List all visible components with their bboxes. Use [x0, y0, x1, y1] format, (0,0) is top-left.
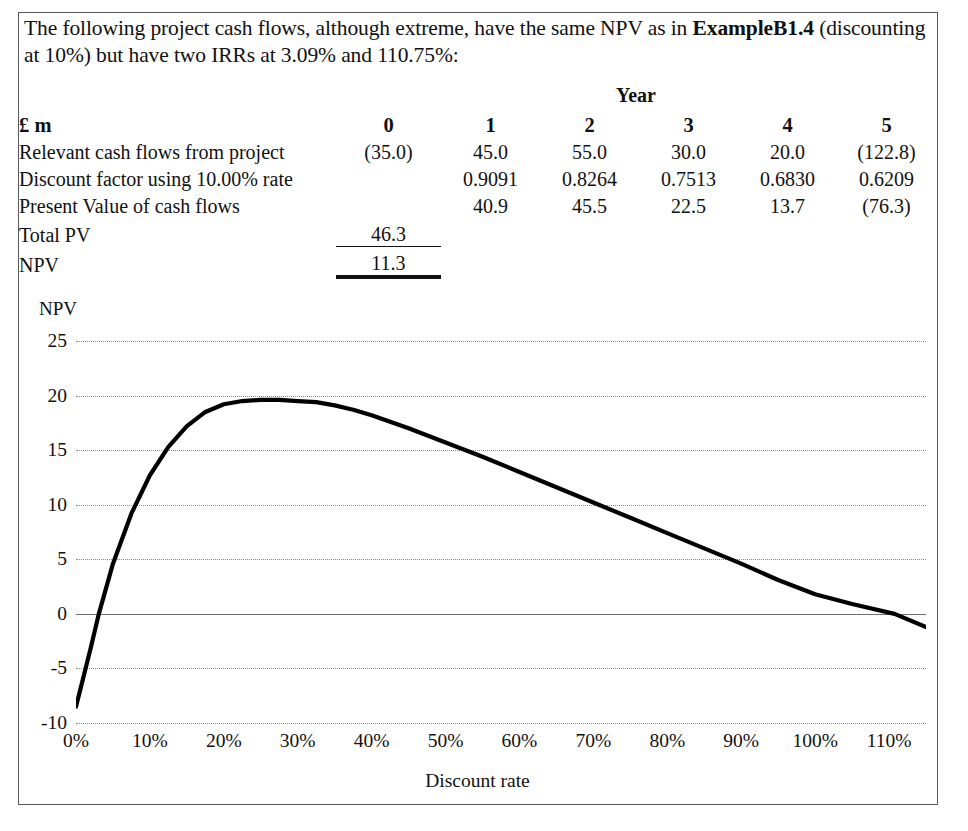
cell-discount-y5: 0.6209	[837, 164, 936, 191]
table-header-row: £ m 0 1 2 3 4 5	[19, 107, 936, 137]
cell-cashflow-y5: (122.8)	[837, 137, 936, 164]
y-tick-label: 5	[19, 549, 67, 569]
cell-cashflow-y1: 45.0	[441, 137, 540, 164]
x-tick-label: 40%	[342, 731, 402, 751]
table-row: Total PV 46.3	[19, 218, 936, 247]
intro-paragraph: The following project cash flows, althou…	[24, 15, 932, 69]
cell-discount-y3: 0.7513	[639, 164, 738, 191]
x-tick-label: 10%	[120, 731, 180, 751]
table-row: Present Value of cash flows 40.9 45.5 22…	[19, 191, 936, 218]
gridline	[76, 723, 926, 724]
row-label-cash-flows: Relevant cash flows from project	[19, 137, 336, 164]
content-frame: The following project cash flows, althou…	[18, 12, 938, 805]
row-label-total-pv: Total PV	[19, 218, 336, 247]
x-tick-label: 80%	[637, 731, 697, 751]
summary-spacer-10	[837, 247, 936, 278]
intro-text-part-1: The following project cash flows, althou…	[24, 16, 693, 40]
summary-spacer-9	[738, 247, 837, 278]
x-tick-label: 100%	[785, 731, 845, 751]
x-tick-label: 20%	[194, 731, 254, 751]
x-tick-label: 30%	[268, 731, 328, 751]
unit-header: £ m	[19, 107, 336, 137]
summary-spacer-3	[639, 218, 738, 247]
column-header-5: 5	[837, 107, 936, 137]
y-tick-label: 10	[19, 495, 67, 515]
cell-cashflow-y0: (35.0)	[336, 137, 441, 164]
cell-discount-y4: 0.6830	[738, 164, 837, 191]
cell-discount-y1: 0.9091	[441, 164, 540, 191]
y-tick-label: 15	[19, 440, 67, 460]
table-row: Discount factor using 10.00% rate 0.9091…	[19, 164, 936, 191]
plot-area	[76, 341, 926, 723]
cell-pv-y1: 40.9	[441, 191, 540, 218]
cell-total-pv-value: 46.3	[336, 218, 441, 247]
y-tick-label: -5	[19, 658, 67, 678]
y-tick-label: 25	[19, 331, 67, 351]
y-axis-title: NPV	[39, 298, 77, 320]
year-band-spacer	[19, 81, 336, 107]
x-tick-label: 50%	[416, 731, 476, 751]
intro-example-ref-2: B1.4	[773, 16, 814, 40]
cell-cashflow-y3: 30.0	[639, 137, 738, 164]
column-header-1: 1	[441, 107, 540, 137]
cell-pv-y4: 13.7	[738, 191, 837, 218]
summary-spacer-6	[441, 247, 540, 278]
cell-discount-y2: 0.8264	[540, 164, 639, 191]
column-header-0: 0	[336, 107, 441, 137]
cell-pv-y3: 22.5	[639, 191, 738, 218]
row-label-npv: NPV	[19, 247, 336, 278]
summary-spacer-7	[540, 247, 639, 278]
npv-curve	[76, 341, 926, 723]
summary-spacer-2	[540, 218, 639, 247]
column-header-2: 2	[540, 107, 639, 137]
y-tick-label: 20	[19, 386, 67, 406]
row-label-present-value: Present Value of cash flows	[19, 191, 336, 218]
npv-profile-chart: NPV 2520151050-5-10 0%10%20%30%40%50%60%…	[19, 298, 936, 803]
x-tick-label: 0%	[46, 731, 106, 751]
summary-spacer-4	[738, 218, 837, 247]
row-label-discount-factor: Discount factor using 10.00% rate	[19, 164, 336, 191]
table-year-band-row: Year	[19, 81, 936, 107]
summary-spacer-8	[639, 247, 738, 278]
y-tick-label: 0	[19, 604, 67, 624]
y-tick-label: -10	[19, 713, 67, 733]
cash-flow-table: Year £ m 0 1 2 3 4 5 Relevant cash flows…	[19, 81, 936, 279]
table-row: Relevant cash flows from project (35.0) …	[19, 137, 936, 164]
x-axis-title: Discount rate	[19, 770, 936, 792]
cell-discount-y0	[336, 164, 441, 191]
x-tick-label: 90%	[711, 731, 771, 751]
cell-cashflow-y2: 55.0	[540, 137, 639, 164]
x-tick-label: 60%	[489, 731, 549, 751]
cell-pv-y2: 45.5	[540, 191, 639, 218]
summary-spacer-5	[837, 218, 936, 247]
x-tick-label: 110%	[859, 731, 919, 751]
cell-pv-y0	[336, 191, 441, 218]
column-header-3: 3	[639, 107, 738, 137]
cell-pv-y5: (76.3)	[837, 191, 936, 218]
cell-npv-value: 11.3	[336, 247, 441, 278]
intro-example-ref-1: Example	[693, 16, 774, 40]
year-band-label: Year	[336, 81, 936, 107]
x-tick-label: 70%	[563, 731, 623, 751]
column-header-4: 4	[738, 107, 837, 137]
table-row: NPV 11.3	[19, 247, 936, 278]
summary-spacer-1	[441, 218, 540, 247]
cell-cashflow-y4: 20.0	[738, 137, 837, 164]
